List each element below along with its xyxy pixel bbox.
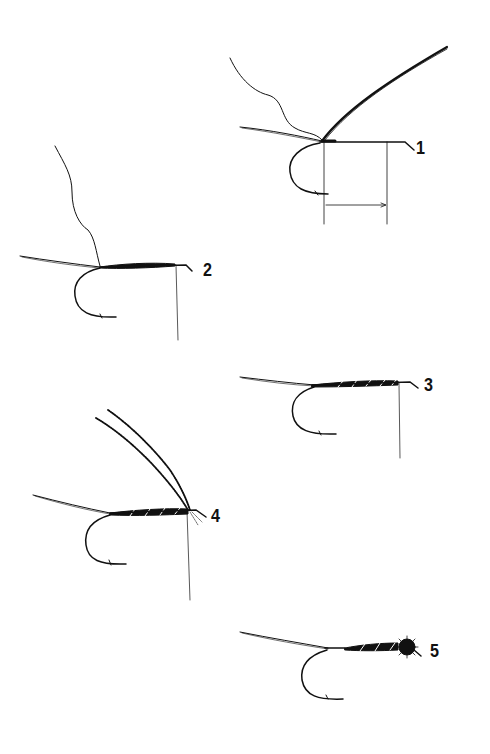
step-4-label: 4 (211, 505, 220, 527)
step-2-label: 2 (203, 259, 212, 281)
step-2-figure (20, 146, 192, 340)
fly-tying-diagram: 1 2 3 (0, 0, 490, 754)
step-4-figure (33, 410, 206, 600)
step-3-figure (240, 377, 418, 458)
step-1-figure (230, 47, 447, 224)
step-5-label: 5 (430, 640, 439, 662)
step-1-label: 1 (416, 137, 425, 159)
step-5-figure (240, 632, 421, 699)
step-3-label: 3 (424, 374, 433, 396)
